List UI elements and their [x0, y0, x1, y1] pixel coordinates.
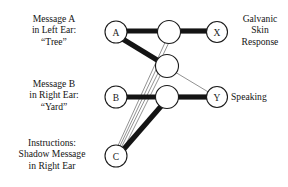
label-galvanic-skin-response: Galvanic Skin Response: [232, 13, 288, 47]
label-instructions: Instructions: Shadow Message in Right Ea…: [2, 137, 102, 171]
edge-c-to-h2: [121, 69, 160, 148]
node-label-y: Y: [214, 93, 221, 103]
edge-a-to-h2: [121, 38, 162, 63]
label-message-b-line1: Message B: [6, 78, 102, 89]
node-label-x: X: [214, 28, 221, 38]
node-label-c: C: [113, 152, 119, 162]
node-label-a: A: [113, 28, 120, 38]
label-speaking: Speaking: [231, 91, 287, 102]
label-galvanic-line1: Galvanic: [232, 13, 288, 24]
hidden-node-3[interactable]: [156, 86, 179, 109]
node-circle-hidden-2[interactable]: [156, 55, 179, 78]
label-instructions-line2: Shadow Message: [2, 148, 102, 159]
label-message-b-line2: in Right Ear:: [6, 89, 102, 100]
label-message-a-line3: “Tree”: [6, 36, 102, 47]
label-instructions-line3: in Right Ear: [2, 160, 102, 171]
label-message-b-line3: “Yard”: [6, 101, 102, 112]
input-node-a[interactable]: A: [105, 21, 127, 43]
input-node-b[interactable]: B: [105, 86, 127, 108]
label-message-a: Message A in Left Ear: “Tree”: [6, 13, 102, 47]
input-node-c[interactable]: C: [105, 145, 127, 167]
label-speaking-line1: Speaking: [231, 91, 287, 102]
edge-h2-to-y: [175, 72, 210, 93]
label-message-a-line2: in Left Ear:: [6, 24, 102, 35]
node-circle-hidden-3[interactable]: [156, 86, 179, 109]
output-node-x[interactable]: X: [207, 22, 228, 43]
hidden-node-1[interactable]: [158, 21, 181, 44]
output-node-y[interactable]: Y: [207, 87, 228, 108]
diagram-canvas: A B C X Y Message A in Lef: [0, 0, 288, 187]
label-message-a-line1: Message A: [6, 13, 102, 24]
label-instructions-line1: Instructions:: [2, 137, 102, 148]
node-label-b: B: [113, 93, 119, 103]
hidden-node-2[interactable]: [156, 55, 179, 78]
node-circle-hidden-1[interactable]: [158, 21, 181, 44]
label-message-b: Message B in Right Ear: “Yard”: [6, 78, 102, 112]
label-galvanic-line3: Response: [232, 36, 288, 47]
label-galvanic-line2: Skin: [232, 24, 288, 35]
